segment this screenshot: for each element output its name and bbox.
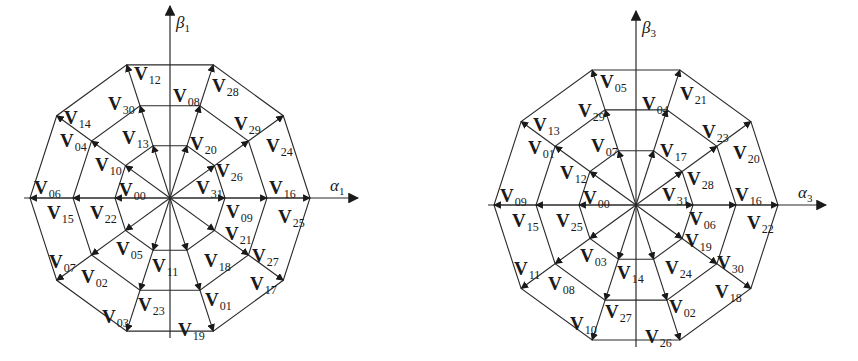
vector-label-V07: V07	[49, 251, 76, 275]
vector-arrow	[126, 198, 170, 230]
vector-label-V20: V20	[733, 142, 760, 166]
vector-label-V20: V20	[190, 133, 217, 157]
vector-label-V04: V04	[60, 130, 87, 154]
vector-label-V10: V10	[95, 154, 122, 178]
vector-label-V24: V24	[266, 135, 293, 159]
vector-arrow	[187, 250, 200, 290]
vector-label-V19: V19	[685, 230, 712, 254]
vector-label-V06: V06	[689, 208, 716, 232]
vector-label-V28: V28	[212, 75, 239, 99]
vector-label-V02: V02	[669, 296, 696, 320]
vector-label-V16: V16	[735, 184, 762, 208]
space-vector-diagrams: α1β1V12V28V08V30V14V29V04V24V13V20V10V26…	[0, 0, 858, 361]
beta-axis-label: β3	[641, 18, 656, 39]
vector-label-V12: V12	[560, 162, 587, 186]
vector-label-V07: V07	[591, 135, 618, 159]
vector-label-V30: V30	[717, 252, 744, 276]
vector-arrow	[170, 198, 214, 230]
vector-label-V24: V24	[665, 257, 692, 281]
vector-arrow	[636, 205, 654, 259]
vector-label-V04: V04	[642, 93, 669, 117]
alpha-axis-label: α3	[798, 183, 813, 204]
vector-label-V21: V21	[225, 223, 252, 247]
vector-label-V09: V09	[226, 201, 253, 225]
vector-label-V29: V29	[578, 100, 605, 124]
vector-label-V23: V23	[702, 121, 729, 145]
vector-label-V17: V17	[250, 273, 277, 297]
vector-arrow	[636, 205, 682, 239]
vector-label-V13: V13	[533, 114, 560, 138]
vector-label-V17: V17	[660, 140, 687, 164]
beta-axis-label: β1	[175, 13, 190, 34]
vector-label-V14: V14	[617, 262, 644, 286]
vector-label-V31: V31	[662, 184, 689, 208]
vector-label-V08: V08	[548, 273, 575, 297]
vector-arrow	[170, 146, 187, 198]
vector-label-V00: V00	[583, 187, 610, 211]
vector-arrow	[170, 198, 187, 250]
vector-label-V27: V27	[605, 301, 632, 325]
vector-label-V22: V22	[747, 212, 774, 236]
vector-label-V22: V22	[90, 202, 117, 226]
vector-label-V09: V09	[500, 185, 527, 209]
vector-label-V01: V01	[528, 137, 555, 161]
vector-label-V16: V16	[269, 177, 296, 201]
vector-label-V10: V10	[570, 313, 597, 337]
vector-label-V26: V26	[216, 160, 243, 184]
vector-arrow	[618, 205, 636, 259]
vector-label-V25: V25	[278, 206, 305, 230]
vector-label-V05: V05	[600, 71, 627, 95]
diagram-alpha3-beta3: α3β3V05V21V04V29V13V23V01V20V07V17V12V28…	[488, 11, 826, 350]
diagram-alpha1-beta1: α1β1V12V28V08V30V14V29V04V24V13V20V10V26…	[24, 6, 358, 343]
vector-label-V26: V26	[645, 326, 672, 350]
vector-label-V03: V03	[102, 306, 129, 330]
vector-label-V18: V18	[715, 281, 742, 305]
vector-arrow	[636, 151, 654, 205]
vector-label-V06: V06	[34, 177, 61, 201]
vector-label-V14: V14	[64, 107, 91, 131]
vector-arrow	[667, 70, 680, 110]
vector-label-V23: V23	[138, 294, 165, 318]
vector-label-V11: V11	[152, 255, 178, 279]
alpha-axis-label: α1	[330, 176, 344, 197]
vector-label-V00: V00	[119, 179, 146, 203]
vector-label-V15: V15	[512, 210, 539, 234]
vector-arrow	[618, 151, 636, 205]
vector-label-V01: V01	[205, 289, 232, 313]
vector-label-V28: V28	[687, 168, 714, 192]
vector-label-V29: V29	[234, 113, 261, 137]
vector-label-V27: V27	[252, 245, 279, 269]
vector-label-V11: V11	[514, 258, 540, 282]
vector-label-V03: V03	[580, 245, 607, 269]
vector-label-V18: V18	[204, 250, 231, 274]
vector-label-V02: V02	[81, 266, 108, 290]
vector-label-V08: V08	[173, 85, 200, 109]
vector-label-V30: V30	[108, 93, 135, 117]
vector-label-V13: V13	[122, 127, 149, 151]
vector-label-V05: V05	[116, 238, 143, 262]
vector-arrow	[153, 198, 170, 250]
vector-label-V25: V25	[556, 210, 583, 234]
vector-label-V15: V15	[47, 202, 74, 226]
vector-arrow	[153, 146, 170, 198]
vector-label-V19: V19	[178, 319, 205, 343]
vector-label-V12: V12	[134, 63, 161, 87]
